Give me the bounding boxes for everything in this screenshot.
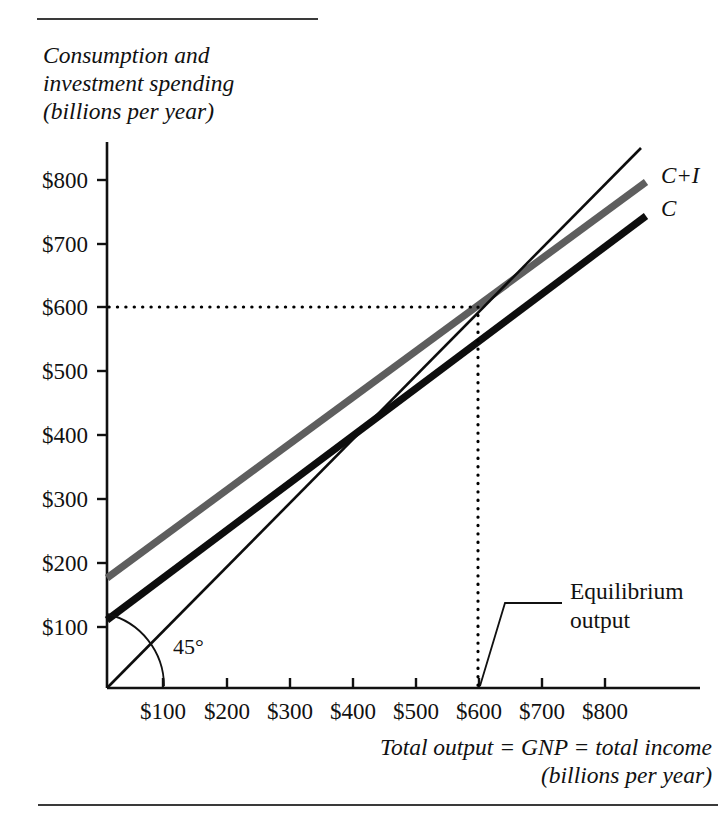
y-axis-ticks [97,180,107,627]
x-tick-label-200: $200 [204,699,250,724]
y-axis-title-line-3: (billions per year) [43,98,214,124]
x-axis-title-line-1: Total output = GNP = total income [380,734,712,760]
x-axis-title-line-2: (billions per year) [541,762,712,788]
series-line-c-plus-i [107,182,646,578]
series-label-c: C [661,196,677,221]
y-tick-label-600: $600 [42,295,88,320]
equilibrium-leader-line [480,603,562,686]
equilibrium-label-line-2: output [570,607,631,633]
x-axis-ticks [163,678,605,688]
x-axis-tick-labels: $100 $200 $300 $400 $500 $600 $700 $800 [140,699,628,724]
x-tick-label-300: $300 [267,699,313,724]
equilibrium-label-line-1: Equilibrium [570,578,684,604]
series-line-c [107,216,646,620]
series-label-c-plus-i: C+I [661,163,701,188]
y-tick-label-400: $400 [42,423,88,448]
y-axis-title-line-2: investment spending [43,70,234,96]
y-tick-label-200: $200 [42,551,88,576]
y-tick-label-500: $500 [42,359,88,384]
angle-label-45: 45° [173,634,204,659]
x-tick-label-100: $100 [140,699,186,724]
x-tick-label-700: $700 [519,699,565,724]
x-tick-label-800: $800 [582,699,628,724]
gnp-equilibrium-figure: Consumption and investment spending (bil… [0,0,728,823]
angle-arc-45 [107,614,164,686]
x-tick-label-500: $500 [393,699,439,724]
y-tick-label-800: $800 [42,168,88,193]
y-tick-label-300: $300 [42,487,88,512]
y-axis-title-line-1: Consumption and [43,42,210,68]
y-axis-tick-labels: $800 $700 $600 $500 $400 $300 $200 $100 [42,168,88,640]
x-tick-label-600: $600 [456,699,502,724]
series-line-45-degree [107,148,641,688]
y-tick-label-100: $100 [42,615,88,640]
y-tick-label-700: $700 [42,232,88,257]
x-tick-label-400: $400 [330,699,376,724]
